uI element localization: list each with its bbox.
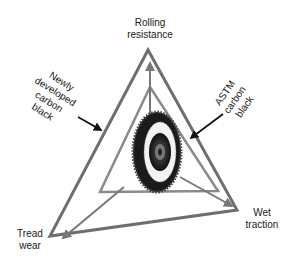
label-resistance: resistance xyxy=(118,29,182,41)
astm-callout-arrow xyxy=(191,114,223,138)
label-wet: Wet xyxy=(240,207,284,219)
tire-icon xyxy=(133,112,181,192)
label-tread: Tread xyxy=(10,228,50,240)
label-traction: traction xyxy=(240,219,284,231)
label-rolling-resistance: Rolling resistance xyxy=(118,17,182,41)
label-wear: wear xyxy=(10,240,50,252)
label-rolling: Rolling xyxy=(118,17,182,29)
label-tread-wear: Tread wear xyxy=(10,228,50,252)
label-wet-traction: Wet traction xyxy=(240,207,284,231)
newly-developed-callout-arrow xyxy=(78,117,101,130)
